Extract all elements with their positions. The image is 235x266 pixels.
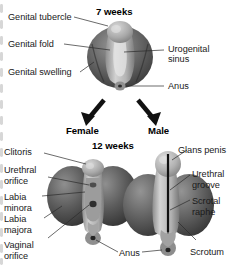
label-labia-minora-line1: Labia — [4, 192, 26, 202]
label-genital-swelling: Genital swelling — [8, 67, 72, 77]
label-genital-fold: Genital fold — [8, 39, 54, 49]
label-anus-indifferent: Anus — [168, 81, 189, 91]
label-glans-penis: Glans penis — [178, 145, 226, 155]
arrow-to-male — [138, 100, 161, 126]
genital-tubercle — [107, 21, 133, 43]
label-urethral-groove-line1: Urethral — [192, 169, 224, 179]
label-scrotal-raphe-line1: Scrotal — [192, 196, 220, 206]
indifferent-stage-figure — [87, 21, 153, 91]
label-labia-majora-line2: majora — [4, 225, 32, 235]
label-scrotal-raphe-line2: raphe — [192, 207, 215, 217]
embryology-genital-development-diagram: 7 weeks Genital tubercle Genital fold Ge… — [0, 0, 235, 266]
differentiation-arrows — [81, 100, 161, 126]
label-clitoris: Clitoris — [4, 147, 32, 157]
label-anus-shared: Anus — [119, 248, 140, 258]
heading-female: Female — [66, 126, 99, 136]
arrow-to-female — [81, 100, 104, 126]
label-vaginal-orifice-line1: Vaginal — [4, 240, 34, 250]
urethral-orifice — [90, 183, 97, 188]
label-urogenital-sinus-line2: sinus — [168, 54, 189, 64]
anus-female — [90, 236, 95, 240]
label-urethral-groove-line2: groove — [192, 180, 220, 190]
label-genital-tubercle: Genital tubercle — [8, 12, 72, 22]
clitoris — [82, 159, 104, 177]
stage-title-7-weeks: 7 weeks — [96, 7, 132, 17]
vaginal-orifice — [89, 201, 96, 207]
anus-male — [165, 248, 170, 252]
label-urethral-orifice-line1: Urethral — [4, 165, 36, 175]
label-urethral-orifice-line2: orifice — [4, 176, 28, 186]
label-labia-majora-line1: Labia — [4, 214, 26, 224]
stage-title-12-weeks: 12 weeks — [92, 141, 134, 151]
scan-edge-artifact — [0, 0, 6, 266]
label-scrotum: Scrotum — [190, 247, 224, 257]
heading-male: Male — [148, 126, 169, 136]
label-vaginal-orifice-line2: orifice — [4, 251, 28, 261]
label-labia-minora-line2: minora — [4, 203, 32, 213]
label-urogenital-sinus-line1: Urogenital — [168, 44, 209, 54]
